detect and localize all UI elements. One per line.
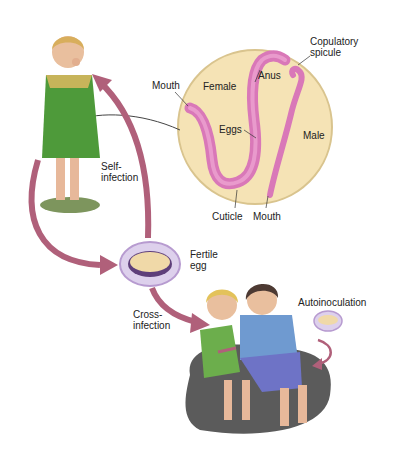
magnified-worm-circle [74, 50, 332, 208]
girl-standing-figure [40, 36, 100, 213]
label-eggs: Eggs [219, 124, 242, 135]
label-female: Female [203, 81, 236, 92]
label-mouth-female: Mouth [152, 80, 180, 91]
self-infection-arrow [100, 82, 148, 238]
label-cuticle: Cuticle [212, 211, 243, 222]
label-fertile-egg: Fertile egg [190, 249, 218, 271]
label-copulatory-spicule: Copulatory spicule [310, 36, 358, 58]
label-autoinoculation: Autoinoculation [298, 297, 366, 308]
pinworm-lifecycle-illustration [0, 0, 393, 451]
label-cross-infection: Cross- infection [133, 309, 170, 331]
label-self-infection: Self- infection [101, 161, 138, 183]
label-male: Male [303, 130, 325, 141]
fertile-egg [120, 242, 180, 286]
label-anus: Anus [258, 70, 281, 81]
autoinoculation-egg [314, 311, 342, 331]
label-mouth-male: Mouth [253, 211, 281, 222]
